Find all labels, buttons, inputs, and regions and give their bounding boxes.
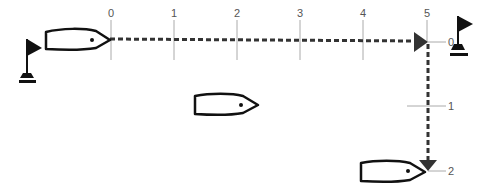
flag-icon bbox=[458, 16, 473, 32]
dashed-path-horizontal bbox=[110, 39, 416, 41]
flag-pole bbox=[26, 39, 28, 74]
vertical-axis-labels: 0 1 2 bbox=[448, 36, 454, 177]
boat-hull-icon bbox=[195, 94, 258, 115]
boat-helm-dot bbox=[239, 103, 243, 107]
flag-base-icon bbox=[20, 73, 34, 78]
boat-hull-icon bbox=[361, 161, 425, 182]
boat-hull-icon bbox=[46, 29, 110, 50]
flag-pole bbox=[457, 16, 459, 46]
tick-label-v-1: 1 bbox=[448, 100, 454, 112]
horizontal-axis-labels: 0 1 2 3 4 5 bbox=[108, 7, 430, 19]
tick-label-h-1: 1 bbox=[171, 7, 177, 19]
tick-label-h-0: 0 bbox=[108, 7, 114, 19]
race-diagram: 0 1 2 3 4 5 0 1 2 bbox=[0, 0, 500, 191]
flag-mark-left bbox=[19, 39, 42, 83]
arrowhead-right-icon bbox=[414, 32, 428, 52]
boat-middle bbox=[195, 94, 258, 115]
tick-label-v-2: 2 bbox=[448, 165, 454, 177]
boat-helm-dot bbox=[406, 169, 410, 173]
boat-bottom-right bbox=[361, 161, 425, 182]
flag-base-bar bbox=[19, 80, 36, 83]
tick-label-h-5: 5 bbox=[424, 7, 430, 19]
tick-label-h-3: 3 bbox=[297, 7, 303, 19]
boat-start-left bbox=[46, 29, 110, 50]
flag-icon bbox=[27, 39, 42, 56]
tick-label-h-4: 4 bbox=[360, 7, 366, 19]
flag-base-bar bbox=[450, 53, 468, 56]
boat-helm-dot bbox=[90, 38, 94, 42]
tick-label-h-2: 2 bbox=[234, 7, 240, 19]
